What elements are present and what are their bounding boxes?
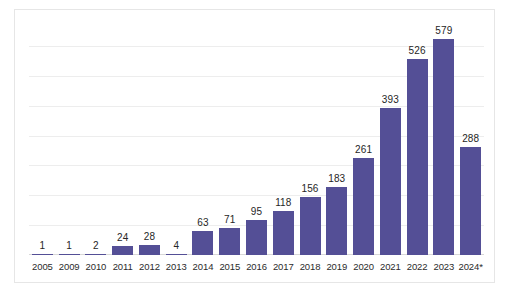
bar-value-label: 63 — [197, 217, 208, 228]
bar[interactable] — [273, 211, 294, 255]
bars-group: 11224284637195118156183261393526579288 — [29, 16, 484, 255]
bar[interactable] — [139, 245, 160, 255]
bar-slot[interactable]: 183 — [323, 16, 350, 255]
x-axis-tick-label: 2024* — [457, 258, 484, 276]
x-axis-tick-labels: 2005200920102011201220132014201520162017… — [29, 258, 484, 276]
bar[interactable] — [433, 39, 454, 255]
bar-value-label: 1 — [66, 240, 72, 251]
bar-value-label: 288 — [462, 133, 479, 144]
x-axis-tick-label: 2016 — [243, 258, 270, 276]
bar-slot[interactable]: 1 — [29, 16, 56, 255]
bar-slot[interactable]: 71 — [216, 16, 243, 255]
bar[interactable] — [380, 108, 401, 255]
bar[interactable] — [326, 187, 347, 255]
bar[interactable] — [300, 197, 321, 255]
bar-value-label: 71 — [224, 214, 235, 225]
bar-value-label: 526 — [409, 45, 426, 56]
bar-slot[interactable]: 4 — [163, 16, 190, 255]
bar[interactable] — [460, 147, 481, 255]
bar[interactable] — [192, 231, 213, 255]
bar-value-label: 393 — [382, 94, 399, 105]
bar-value-label: 118 — [275, 197, 291, 208]
x-axis-tick-label: 2021 — [377, 258, 404, 276]
x-axis-tick-label: 2014 — [190, 258, 217, 276]
bar[interactable] — [353, 158, 374, 255]
x-axis-tick-label: 2018 — [297, 258, 324, 276]
x-axis-tick-label: 2009 — [56, 258, 83, 276]
x-axis-tick-label: 2019 — [323, 258, 350, 276]
bar-value-label: 183 — [328, 173, 345, 184]
bar-slot[interactable]: 526 — [404, 16, 431, 255]
bar[interactable] — [246, 220, 267, 255]
bar-slot[interactable]: 118 — [270, 16, 297, 255]
bar-chart-figure: 11224284637195118156183261393526579288 2… — [0, 0, 509, 294]
bar-slot[interactable]: 579 — [430, 16, 457, 255]
plot-area: 11224284637195118156183261393526579288 — [29, 16, 484, 255]
x-axis-tick-label: 2013 — [163, 258, 190, 276]
bar-slot[interactable]: 24 — [109, 16, 136, 255]
bar-slot[interactable]: 288 — [457, 16, 484, 255]
x-axis-tick-label: 2011 — [109, 258, 136, 276]
bar[interactable] — [112, 246, 133, 255]
bar-value-label: 579 — [435, 25, 452, 36]
bar-slot[interactable]: 261 — [350, 16, 377, 255]
bar-slot[interactable]: 63 — [190, 16, 217, 255]
bar-value-label: 24 — [117, 232, 128, 243]
bar[interactable] — [219, 228, 240, 255]
x-axis-tick-label: 2017 — [270, 258, 297, 276]
x-axis-tick-label: 2020 — [350, 258, 377, 276]
x-axis-tick-label: 2023 — [430, 258, 457, 276]
bar-value-label: 2 — [93, 240, 99, 251]
bar-value-label: 95 — [251, 206, 262, 217]
bar-value-label: 1 — [40, 240, 46, 251]
x-axis-tick-label: 2012 — [136, 258, 163, 276]
bar-value-label: 28 — [144, 231, 155, 242]
bar[interactable] — [32, 254, 53, 255]
x-axis-tick-label: 2005 — [29, 258, 56, 276]
bar[interactable] — [59, 254, 80, 255]
bar-slot[interactable]: 2 — [83, 16, 110, 255]
bar-slot[interactable]: 95 — [243, 16, 270, 255]
bar-slot[interactable]: 393 — [377, 16, 404, 255]
bar[interactable] — [166, 254, 187, 255]
bar[interactable] — [407, 59, 428, 255]
bar[interactable] — [85, 254, 106, 255]
x-axis-tick-label: 2010 — [83, 258, 110, 276]
x-axis-tick-label: 2015 — [216, 258, 243, 276]
bar-value-label: 156 — [302, 183, 319, 194]
bar-value-label: 4 — [173, 240, 179, 251]
bar-slot[interactable]: 1 — [56, 16, 83, 255]
bar-slot[interactable]: 28 — [136, 16, 163, 255]
bar-value-label: 261 — [355, 144, 372, 155]
bar-slot[interactable]: 156 — [297, 16, 324, 255]
x-axis-tick-label: 2022 — [404, 258, 431, 276]
